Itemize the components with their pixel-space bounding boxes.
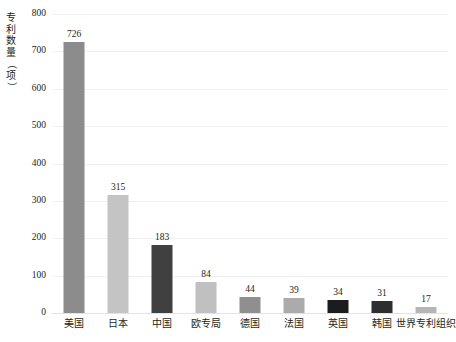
x-tick-label: 美国 xyxy=(64,318,84,330)
bar-group[interactable]: 183 xyxy=(140,14,184,313)
bar-value-label: 31 xyxy=(377,288,387,298)
bar-value-label: 84 xyxy=(201,269,211,279)
bar[interactable] xyxy=(240,297,261,313)
bar-group[interactable]: 39 xyxy=(272,14,316,313)
bar-group[interactable]: 31 xyxy=(360,14,404,313)
bar-group[interactable]: 34 xyxy=(316,14,360,313)
x-tick-label: 欧专局 xyxy=(191,318,221,330)
bar[interactable] xyxy=(108,195,129,313)
bar-group[interactable]: 726 xyxy=(52,14,96,313)
y-tick-label: 500 xyxy=(2,121,46,131)
x-axis-tick-labels: 美国日本中国欧专局德国法国英国韩国世界专利组织 xyxy=(52,318,448,338)
x-tick-label: 法国 xyxy=(284,318,304,330)
bar-value-label: 183 xyxy=(155,232,169,242)
bar[interactable] xyxy=(152,245,173,313)
bar-value-label: 726 xyxy=(67,29,81,39)
bars: 726315183844439343117 xyxy=(52,14,448,313)
x-tick-label: 德国 xyxy=(240,318,260,330)
y-tick-label: 400 xyxy=(2,159,46,169)
bar-group[interactable]: 17 xyxy=(404,14,448,313)
y-tick-label: 200 xyxy=(2,233,46,243)
bar-group[interactable]: 315 xyxy=(96,14,140,313)
y-axis-tick-labels: 8007006005004003002001000 xyxy=(0,14,46,313)
bar-value-label: 315 xyxy=(111,182,125,192)
x-tick-label: 中国 xyxy=(152,318,172,330)
bar-value-label: 34 xyxy=(333,287,343,297)
bar[interactable] xyxy=(64,42,85,313)
bar-group[interactable]: 84 xyxy=(184,14,228,313)
y-tick-label: 100 xyxy=(2,271,46,281)
bar[interactable] xyxy=(372,301,393,313)
x-tick-label: 韩国 xyxy=(372,318,392,330)
x-tick-label: 日本 xyxy=(108,318,128,330)
bar[interactable] xyxy=(328,300,349,313)
bar-group[interactable]: 44 xyxy=(228,14,272,313)
bar[interactable] xyxy=(416,307,437,313)
bar[interactable] xyxy=(284,298,305,313)
x-tick-label: 英国 xyxy=(328,318,348,330)
y-tick-label: 600 xyxy=(2,84,46,94)
bar[interactable] xyxy=(196,282,217,313)
y-tick-label: 0 xyxy=(2,308,46,318)
y-tick-label: 700 xyxy=(2,46,46,56)
bar-value-label: 17 xyxy=(421,294,431,304)
y-tick-label: 800 xyxy=(2,9,46,19)
plot-area: 726315183844439343117 xyxy=(52,14,448,313)
bar-value-label: 44 xyxy=(245,284,255,294)
bar-value-label: 39 xyxy=(289,285,299,295)
gridline xyxy=(52,313,448,314)
y-tick-label: 300 xyxy=(2,196,46,206)
x-tick-label: 世界专利组织 xyxy=(396,318,456,330)
